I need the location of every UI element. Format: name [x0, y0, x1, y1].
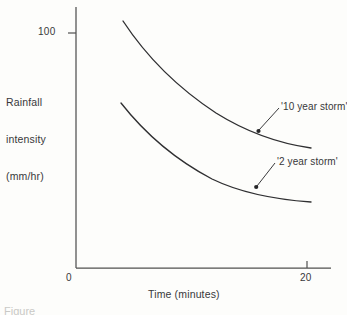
- y-axis-label-line-2: intensity: [6, 133, 46, 145]
- marker-dot-2-year-storm: [254, 185, 258, 189]
- x-axis-tick-label-20: 20: [300, 272, 312, 284]
- marker-dot-10-year-storm: [256, 129, 260, 133]
- leader-line-10-year-storm: [259, 108, 279, 130]
- curve-10-year-storm: [123, 21, 311, 148]
- origin-axis-label: 0: [66, 272, 72, 284]
- y-axis-label-line-3: (mm/hr): [6, 170, 46, 182]
- curve-2-year-storm: [121, 103, 311, 202]
- annotation-2-year-storm: '2 year storm': [277, 156, 338, 168]
- figure-caption-fragment: Figure: [4, 305, 204, 315]
- y-axis-label-line-1: Rainfall: [6, 96, 46, 108]
- y-axis-tick-label-100: 100: [38, 26, 56, 38]
- y-axis-label: Rainfall intensity (mm/hr): [6, 71, 46, 207]
- annotation-10-year-storm: '10 year storm': [281, 101, 347, 113]
- leader-line-2-year-storm: [257, 163, 275, 186]
- x-axis-label: Time (minutes): [148, 288, 220, 300]
